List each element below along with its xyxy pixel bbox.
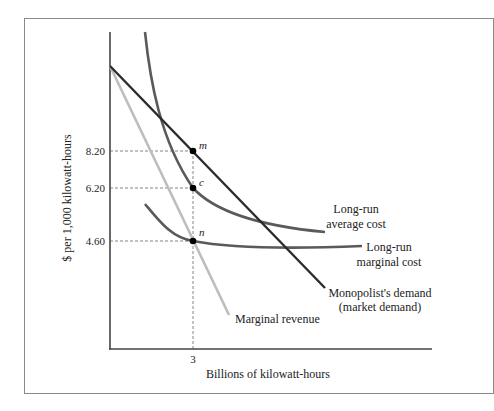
point-n-label: n: [199, 226, 205, 238]
point-c: [190, 185, 197, 192]
y-tick-8-20: 8.20: [86, 145, 106, 157]
point-m-label: m: [199, 139, 207, 151]
lrmc-label-line1: Long-run: [366, 240, 411, 254]
lrac-label-line1: Long-run: [333, 202, 378, 216]
lrac-label-line2: average cost: [326, 217, 386, 231]
lrac-curve: [145, 32, 325, 232]
x-tick-3: 3: [190, 353, 196, 365]
point-c-label: c: [199, 176, 204, 188]
lrmc-label-line2: marginal cost: [357, 255, 422, 269]
demand-curve: [110, 66, 325, 288]
mr-label: Marginal revenue: [235, 312, 320, 326]
y-axis-label: $ per 1,000 kilowatt-hours: [60, 134, 74, 262]
point-n: [190, 238, 197, 245]
y-tick-4-60: 4.60: [86, 235, 106, 247]
marginal-revenue-curve: [110, 66, 229, 315]
y-tick-6-20: 6.20: [86, 182, 106, 194]
dashed-guides: [110, 151, 193, 349]
point-m: [190, 148, 197, 155]
demand-label-line2: (market demand): [339, 300, 421, 314]
x-axis-label: Billions of kilowatt-hours: [206, 367, 330, 381]
demand-label-line1: Monopolist's demand: [328, 286, 431, 300]
